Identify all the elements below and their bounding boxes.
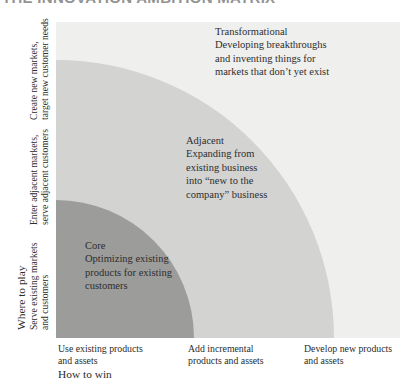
y-axis-tier-2-line1: Create new markets, [28, 18, 39, 120]
y-axis-tier-new-markets: Create new markets, target new customer … [28, 18, 51, 120]
y-axis-tier-1-line1: Enter adjacent markets, [28, 129, 39, 225]
zone-desc-transformational-line2: and inventing things for [215, 52, 395, 65]
x-axis-column-new-products: Develop new products and assets [304, 343, 409, 367]
x-axis-column-incremental-products: Add incremental products and assets [188, 343, 308, 367]
zone-title-transformational: Transformational [215, 25, 395, 38]
zone-label-adjacent: Adjacent Expanding from existing busines… [186, 134, 301, 201]
x-axis-column-existing-products: Use existing products and assets [58, 343, 188, 367]
zone-title-adjacent: Adjacent [186, 134, 301, 147]
zone-title-core: Core [85, 239, 195, 252]
zone-desc-adjacent-line2: existing business [186, 161, 301, 174]
y-axis-tier-existing-markets: Serve existing markets and customers [28, 243, 51, 330]
x-axis-col-0-line1: Use existing products [58, 343, 188, 355]
y-axis-tier-1-line2: serve adjacent customers [39, 129, 50, 225]
zone-label-core: Core Optimizing existing products for ex… [85, 239, 195, 293]
y-axis-title: Where to play [16, 265, 28, 330]
zone-label-transformational: Transformational Developing breakthrough… [215, 25, 395, 79]
y-axis-tier-adjacent-markets: Enter adjacent markets, serve adjacent c… [28, 129, 51, 225]
zone-desc-transformational-line1: Developing breakthroughs [215, 38, 395, 51]
zone-desc-core-line2: products for existing [85, 266, 195, 279]
x-axis-col-0-line2: and assets [58, 355, 188, 367]
zone-desc-adjacent-line1: Expanding from [186, 147, 301, 160]
zone-desc-adjacent-line3: into “new to the [186, 174, 301, 187]
x-axis-col-1-line1: Add incremental [188, 343, 308, 355]
x-axis-col-2-line1: Develop new products [304, 343, 409, 355]
y-axis-tier-2-line2: target new customer needs [39, 18, 50, 120]
x-axis-title: How to win [58, 368, 112, 381]
y-axis-tier-0-line1: Serve existing markets [28, 243, 39, 330]
x-axis-col-2-line2: and assets [304, 355, 409, 367]
zone-desc-core-line3: customers [85, 279, 195, 292]
y-axis-tier-0-line2: and customers [39, 243, 50, 330]
zone-desc-adjacent-line4: company” business [186, 188, 301, 201]
page-title: THE INNOVATION AMBITION MATRIX [2, 0, 275, 6]
zone-desc-core-line1: Optimizing existing [85, 252, 195, 265]
page-title-strip: THE INNOVATION AMBITION MATRIX [0, 0, 409, 9]
x-axis-col-1-line2: products and assets [188, 355, 308, 367]
zone-desc-transformational-line3: markets that don’t yet exist [215, 65, 395, 78]
